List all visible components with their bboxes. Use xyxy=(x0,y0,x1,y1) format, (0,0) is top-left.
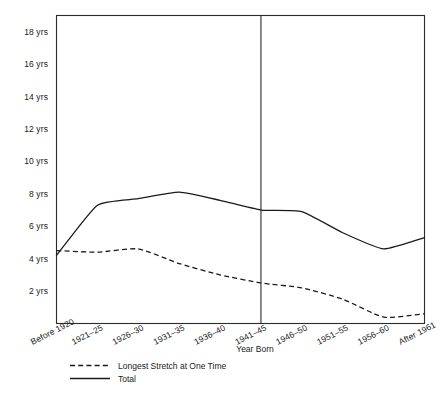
x-axis-title: Year Born xyxy=(236,344,274,354)
chart-container: 2 yrs4 yrs6 yrs8 yrs10 yrs12 yrs14 yrs16… xyxy=(0,0,440,396)
y-axis-tick-label: 16 yrs xyxy=(24,59,48,69)
legend-label-total: Total xyxy=(118,374,136,384)
y-axis-tick-label: 10 yrs xyxy=(24,156,48,166)
y-axis-tick-label: 4 yrs xyxy=(29,254,48,264)
y-axis-tick-label: 2 yrs xyxy=(29,286,48,296)
y-axis-tick-label: 6 yrs xyxy=(29,221,48,231)
y-axis-tick-label: 8 yrs xyxy=(29,189,48,199)
y-axis-tick-label: 14 yrs xyxy=(24,92,48,102)
y-axis-tick-label: 12 yrs xyxy=(24,124,48,134)
y-axis-tick-label: 18 yrs xyxy=(24,27,48,37)
legend-label-longest-stretch: Longest Stretch at One Time xyxy=(118,361,226,371)
line-chart: 2 yrs4 yrs6 yrs8 yrs10 yrs12 yrs14 yrs16… xyxy=(0,0,440,396)
